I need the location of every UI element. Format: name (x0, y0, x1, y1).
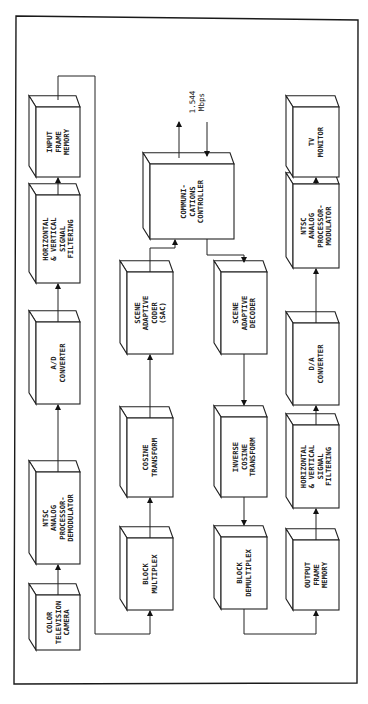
block-multiplex: BLOCKMULTIPLEX (120, 527, 173, 610)
horizontal-vertical-signal-filtering-out-label-line: FILTERING (324, 447, 333, 486)
horizontal-vertical-signal-filtering-out: HORIZONTAL& VERTICALSIGNALFILTERING (286, 414, 339, 508)
scene-adaptive-coder-label-line: (SAC) (158, 302, 167, 324)
ntsc-analog-processor-modulator-label-line: MODULATOR (324, 206, 333, 246)
cosine-transform-label-line: TRANSFORM (150, 437, 159, 477)
cosine-transform: COSINETRANSFORM (120, 407, 173, 497)
communications-controller: COMMUNI-CATIONSCONTROLLER (143, 153, 234, 239)
communications-controller-label-line: CONTROLLER (196, 179, 205, 223)
scene-adaptive-decoder: SCENEADAPTIVEDECODER (214, 261, 267, 354)
d-a-converter: D/ACONVERTER (286, 312, 339, 405)
block-demultiplex-label-line: DEMULTIPLEX (244, 549, 253, 597)
signal-connector (244, 609, 316, 634)
a-d-converter-label-line: CONVERTER (58, 343, 67, 383)
ntsc-analog-processor-demodulator-label-line: DEMODULATOR (66, 494, 75, 542)
output-frame-memory: OUTPUTFRAMEMEMORY (286, 529, 339, 610)
ntsc-analog-processor-demodulator: NTSCANALOGPROCESSOR-DEMODULATOR (29, 461, 80, 564)
input-frame-memory: INPUTFRAMEMEMORY (29, 96, 80, 177)
link-rate-label: 1.544 Mbps (188, 90, 206, 113)
link-rate-unit: Mbps (197, 93, 206, 111)
color-television-camera-label-line: CAMERA (62, 609, 71, 636)
d-a-converter-label-line: CONVERTER (316, 344, 325, 384)
tv-monitor: TVMONITOR (286, 96, 339, 177)
ntsc-analog-processor-modulator: NTSCANALOGPROCESSOR-MODULATOR (286, 173, 339, 268)
horizontal-vertical-signal-filtering-in: HORIZONTAL& VERTICALSIGNALFILTERING (29, 184, 80, 283)
link-rate-value: 1.544 (188, 90, 197, 113)
signal-connector (207, 239, 244, 262)
horizontal-vertical-signal-filtering-in-label-line: FILTERING (66, 220, 75, 259)
scene-adaptive-coder: SCENEADAPTIVECODER(SAC) (120, 261, 173, 354)
tv-monitor-label-line: MONITOR (316, 126, 325, 157)
block-multiplex-label-line: MULTIPLEX (150, 554, 159, 594)
a-d-converter: A/DCONVERTER (29, 311, 80, 404)
input-frame-memory-label-line: MEMORY (62, 128, 71, 155)
output-frame-memory-label-line: MEMORY (320, 561, 329, 588)
inverse-cosine-transform: INVERSECOSINETRANSFORM (214, 406, 267, 497)
block-demultiplex: BLOCKDEMULTIPLEX (214, 526, 267, 609)
scene-adaptive-decoder-label-line: DECODER (248, 297, 257, 328)
inverse-cosine-transform-label-line: TRANSFORM (248, 437, 257, 477)
color-television-camera: COLORTELEVISIONCAMERA (29, 584, 80, 650)
block-diagram: COLORTELEVISIONCAMERANTSCANALOGPROCESSOR… (0, 0, 368, 704)
